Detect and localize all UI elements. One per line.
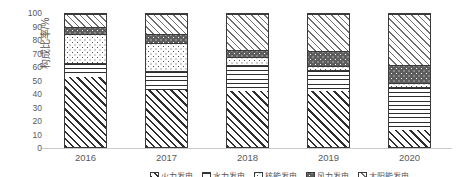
y-tick-label: 10 [16, 131, 42, 140]
x-tick-label: 2020 [378, 152, 442, 163]
plot-area [45, 13, 450, 148]
bar-segment-horizontal-line [389, 87, 430, 130]
legend-item[interactable]: 太阳能发电 [358, 170, 409, 177]
y-tick-label: 20 [16, 117, 42, 126]
bar-segment-dark-speckle [227, 50, 268, 57]
bar-segment-diagonal-hatch [227, 91, 268, 147]
bar-segment-sparse-dots [227, 57, 268, 65]
legend-label: 太阳能发电 [369, 170, 409, 177]
legend-label: 风力发电 [317, 170, 349, 177]
legend-item[interactable]: 核能发电 [254, 170, 297, 177]
bar-segment-sparse-dots [65, 34, 106, 63]
bar-segment-horizontal-line [146, 71, 187, 90]
bar-segment-light-hatch [227, 14, 268, 50]
bar-segment-sparse-dots [146, 43, 187, 71]
y-tick-label: 90 [16, 23, 42, 32]
bar-segment-diagonal-hatch [308, 91, 349, 147]
bar-2019[interactable] [307, 13, 350, 148]
y-tick-label: 80 [16, 36, 42, 45]
legend-swatch-diagonal-hatch [150, 172, 159, 177]
y-tick-label: 60 [16, 63, 42, 72]
bar-segment-light-hatch [389, 14, 430, 65]
y-tick-label: 50 [16, 77, 42, 86]
legend-item[interactable]: 水力发电 [202, 170, 245, 177]
bar-segment-diagonal-hatch [146, 90, 187, 147]
y-tick-label: 70 [16, 50, 42, 59]
stacked-bar-chart: 构成比率/% 1009080706050403020100 2016201720… [0, 0, 457, 177]
y-tick-label: 30 [16, 104, 42, 113]
legend-swatch-light-hatch [358, 172, 367, 177]
bar-segment-horizontal-line [308, 70, 349, 91]
legend-item[interactable]: 火力发电 [150, 170, 193, 177]
legend-swatch-dark-speckle [306, 172, 315, 177]
bar-segment-dark-speckle [146, 34, 187, 43]
bar-2020[interactable] [388, 13, 431, 148]
y-axis-ticks: 1009080706050403020100 [12, 0, 42, 177]
bar-2018[interactable] [226, 13, 269, 148]
legend-item[interactable]: 风力发电 [306, 170, 349, 177]
legend-swatch-sparse-dots [254, 172, 263, 177]
bar-segment-dark-speckle [389, 65, 430, 84]
bar-segment-light-hatch [146, 14, 187, 34]
chart-legend: 火力发电水力发电核能发电风力发电太阳能发电 [150, 170, 409, 177]
bar-segment-horizontal-line [227, 65, 268, 92]
y-tick-label: 0 [16, 144, 42, 153]
bar-segment-horizontal-line [65, 63, 106, 76]
legend-label: 水力发电 [213, 170, 245, 177]
bar-2017[interactable] [145, 13, 188, 148]
x-axis-line [42, 148, 452, 149]
x-tick-label: 2018 [216, 152, 280, 163]
legend-label: 火力发电 [161, 170, 193, 177]
bar-segment-light-hatch [65, 14, 106, 27]
x-tick-label: 2019 [297, 152, 361, 163]
bar-segment-dark-speckle [308, 51, 349, 66]
bar-segment-diagonal-hatch [389, 130, 430, 147]
y-tick-label: 100 [16, 9, 42, 18]
bar-2016[interactable] [64, 13, 107, 148]
y-tick-label: 40 [16, 90, 42, 99]
x-tick-label: 2016 [54, 152, 118, 163]
legend-swatch-horizontal-line [202, 172, 211, 177]
bar-segment-diagonal-hatch [65, 77, 106, 147]
bar-segment-light-hatch [308, 14, 349, 51]
x-tick-label: 2017 [135, 152, 199, 163]
legend-label: 核能发电 [265, 170, 297, 177]
bar-segment-dark-speckle [65, 27, 106, 34]
